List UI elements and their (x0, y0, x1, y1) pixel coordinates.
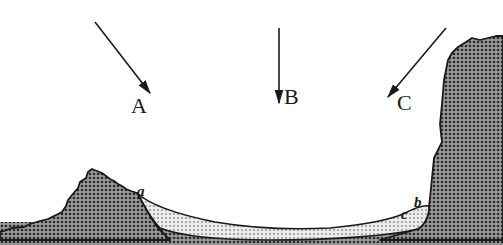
label-b-direction: B (284, 84, 299, 109)
label-c-direction: C (397, 90, 412, 115)
arrow-a-icon (95, 22, 150, 93)
arrow-c-icon (388, 28, 446, 97)
label-point-a: a (137, 183, 145, 199)
label-point-c: c (401, 206, 408, 222)
label-a-direction: A (131, 93, 147, 118)
diagram-canvas: A B C a b c (0, 0, 503, 245)
basin-sediment (137, 193, 429, 240)
label-point-b: b (414, 194, 422, 210)
cross-section-diagram: A B C a b c (0, 0, 503, 245)
right-cliff (380, 36, 503, 240)
